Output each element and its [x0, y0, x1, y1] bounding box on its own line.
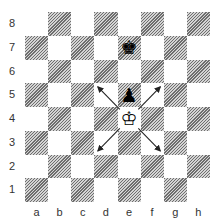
file-label: f — [141, 206, 164, 218]
file-label: c — [71, 206, 94, 218]
file-label: g — [164, 206, 187, 218]
square-h6 — [187, 60, 210, 84]
square-a4 — [25, 107, 48, 131]
rank-label: 4 — [6, 112, 18, 124]
square-h7 — [187, 36, 210, 60]
square-c5 — [71, 83, 94, 107]
square-g8 — [164, 12, 187, 36]
square-c1 — [71, 178, 94, 202]
black-pawn-icon: ♟ — [118, 83, 141, 107]
square-c8 — [71, 12, 94, 36]
square-f4 — [141, 107, 164, 131]
square-b1 — [48, 178, 71, 202]
square-b6 — [48, 60, 71, 84]
square-g2 — [164, 155, 187, 179]
square-a3 — [25, 131, 48, 155]
square-b8 — [48, 12, 71, 36]
white-king-icon: ♔ — [118, 107, 141, 131]
file-label: e — [118, 206, 141, 218]
square-f2 — [141, 155, 164, 179]
file-label: d — [94, 206, 117, 218]
rank-label: 3 — [6, 136, 18, 148]
square-c7 — [71, 36, 94, 60]
square-h2 — [187, 155, 210, 179]
square-b7 — [48, 36, 71, 60]
square-d7 — [94, 36, 117, 60]
square-d3 — [94, 131, 117, 155]
square-d6 — [94, 60, 117, 84]
square-e1 — [118, 178, 141, 202]
square-f7 — [141, 36, 164, 60]
square-h8 — [187, 12, 210, 36]
square-f8 — [141, 12, 164, 36]
square-d5 — [94, 83, 117, 107]
rank-label: 8 — [6, 17, 18, 29]
square-c2 — [71, 155, 94, 179]
square-a2 — [25, 155, 48, 179]
rank-label: 6 — [6, 65, 18, 77]
square-f5 — [141, 83, 164, 107]
square-g5 — [164, 83, 187, 107]
square-a6 — [25, 60, 48, 84]
square-h3 — [187, 131, 210, 155]
square-a7 — [25, 36, 48, 60]
square-f1 — [141, 178, 164, 202]
square-d8 — [94, 12, 117, 36]
square-e8 — [118, 12, 141, 36]
square-c4 — [71, 107, 94, 131]
square-g6 — [164, 60, 187, 84]
square-a1 — [25, 178, 48, 202]
square-b3 — [48, 131, 71, 155]
square-a8 — [25, 12, 48, 36]
square-e6 — [118, 60, 141, 84]
square-h1 — [187, 178, 210, 202]
rank-label: 5 — [6, 88, 18, 100]
file-label: h — [187, 206, 210, 218]
square-f6 — [141, 60, 164, 84]
square-b4 — [48, 107, 71, 131]
square-c6 — [71, 60, 94, 84]
square-g7 — [164, 36, 187, 60]
square-g3 — [164, 131, 187, 155]
square-d2 — [94, 155, 117, 179]
square-b2 — [48, 155, 71, 179]
black-king-icon: ♚ — [118, 36, 141, 60]
square-f3 — [141, 131, 164, 155]
square-g1 — [164, 178, 187, 202]
file-label: b — [48, 206, 71, 218]
square-e3 — [118, 131, 141, 155]
file-label: a — [25, 206, 48, 218]
square-g4 — [164, 107, 187, 131]
square-c3 — [71, 131, 94, 155]
square-h4 — [187, 107, 210, 131]
square-d1 — [94, 178, 117, 202]
rank-label: 7 — [6, 41, 18, 53]
square-d4 — [94, 107, 117, 131]
rank-label: 1 — [6, 183, 18, 195]
square-e2 — [118, 155, 141, 179]
square-a5 — [25, 83, 48, 107]
rank-label: 2 — [6, 160, 18, 172]
square-b5 — [48, 83, 71, 107]
square-h5 — [187, 83, 210, 107]
